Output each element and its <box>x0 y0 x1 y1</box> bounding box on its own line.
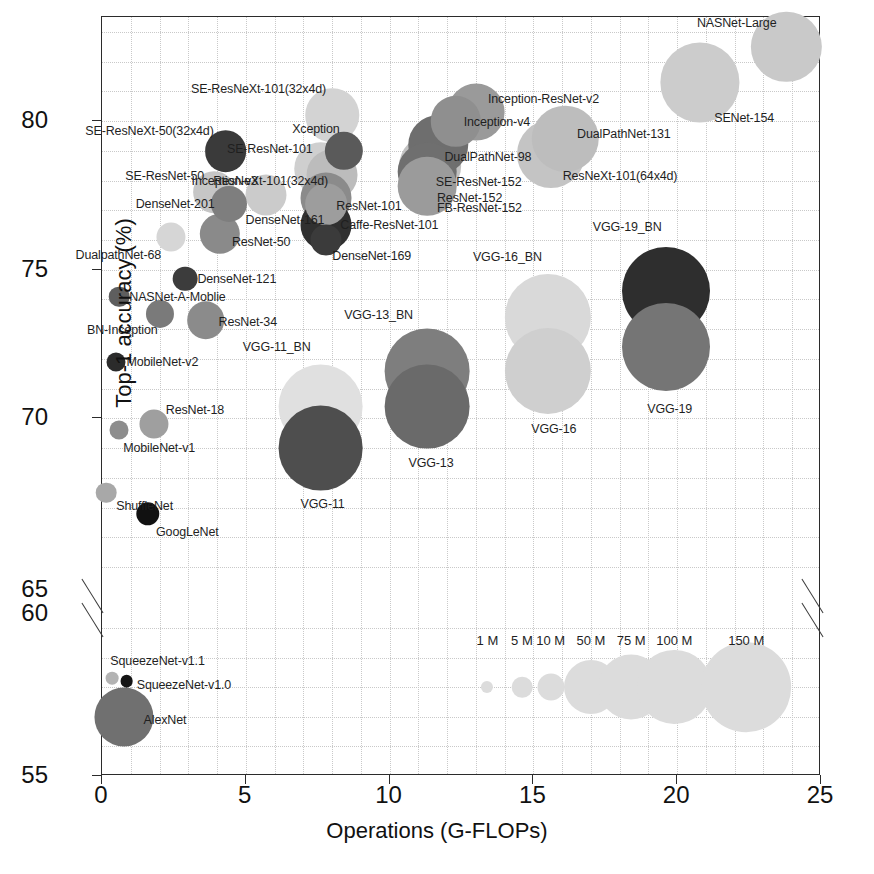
legend-bubble <box>512 677 533 698</box>
y-tick-mark <box>92 269 101 270</box>
plot-area: NASNet-LargeSENet-154SE-ResNeXt-101(32x4… <box>101 16 820 775</box>
x-axis-title: Operations (G-FLOPs) <box>0 818 874 844</box>
x-tick-label: 0 <box>94 781 107 809</box>
y-tick-mark <box>92 775 101 776</box>
y-tick-label: 75 <box>0 255 48 283</box>
x-tick-label: 10 <box>375 781 402 809</box>
y-tick-label: 70 <box>0 403 48 431</box>
y-tick-mark <box>92 120 101 121</box>
legend-label: 5 M <box>511 632 533 647</box>
legend-label: 100 M <box>656 632 692 647</box>
legend-label: 50 M <box>576 632 605 647</box>
y-tick-label: 60 <box>0 599 48 627</box>
legend-label: 150 M <box>728 632 764 647</box>
x-tick-label: 25 <box>807 781 834 809</box>
legend-bubble <box>481 681 493 693</box>
size-legend: 1 M5 M10 M50 M75 M100 M150 M <box>102 17 819 774</box>
legend-bubble <box>637 650 711 724</box>
y-tick-mark <box>92 417 101 418</box>
legend-bubble <box>701 642 791 732</box>
y-axis-title: Top-1 accuracy (%) <box>111 183 137 443</box>
chart-root: NASNet-LargeSENet-154SE-ResNeXt-101(32x4… <box>0 0 874 874</box>
y-tick-label: 55 <box>0 761 48 789</box>
x-tick-label: 15 <box>519 781 546 809</box>
legend-label: 75 M <box>617 632 646 647</box>
x-tick-label: 5 <box>238 781 251 809</box>
x-tick-label: 20 <box>663 781 690 809</box>
legend-bubble <box>537 674 564 701</box>
legend-label: 1 M <box>477 632 499 647</box>
legend-label: 10 M <box>536 632 565 647</box>
y-tick-label: 80 <box>0 106 48 134</box>
